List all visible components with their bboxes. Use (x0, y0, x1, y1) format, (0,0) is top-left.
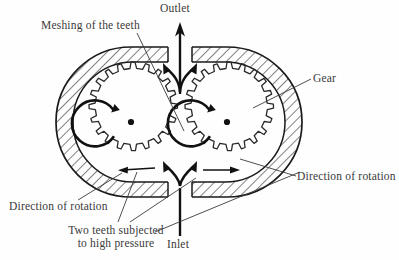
right-gear-shaft-center (224, 119, 230, 125)
right-gear-rotation-arc (168, 100, 210, 146)
inlet-branch-right-head (190, 161, 198, 173)
inlet-branch-left-head (163, 161, 171, 173)
left-gear-shaft-center (128, 119, 134, 125)
left-cavity-flow-head (118, 167, 128, 174)
label-outlet: Outlet (160, 2, 190, 15)
label-direction-of-rotation-left: Direction of rotation (9, 200, 108, 213)
right-cavity-flow-head (230, 167, 240, 174)
label-meshing-of-the-teeth: Meshing of the teeth (41, 19, 140, 32)
gear-pump-drawing (0, 0, 399, 260)
right-gear (168, 62, 274, 151)
left-gear-rotation-arc (72, 100, 114, 146)
right-gear-teeth-profile (185, 62, 274, 151)
label-gear: Gear (313, 72, 336, 85)
label-two-teeth-line1: Two teeth subjected (55, 224, 177, 237)
label-inlet: Inlet (167, 238, 189, 251)
label-two-teeth-line2: to high pressure (55, 237, 177, 250)
gear-pump-diagram-page: Meshing of the teeth Outlet Gear Directi… (0, 0, 399, 260)
left-gear-teeth-profile (89, 62, 178, 151)
label-two-teeth-high-pressure: Two teeth subjected to high pressure (55, 224, 177, 250)
label-direction-of-rotation-right: Direction of rotation (297, 170, 396, 183)
